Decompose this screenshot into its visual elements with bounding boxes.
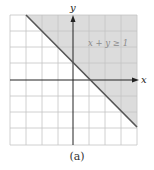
figure-caption: (a) <box>0 150 154 163</box>
y-axis-label: y <box>69 2 76 13</box>
inequality-label: x + y ≥ 1 <box>88 38 128 48</box>
inequality-graph: x y x + y ≥ 1 <box>0 0 154 170</box>
x-axis-label: x <box>141 74 147 85</box>
